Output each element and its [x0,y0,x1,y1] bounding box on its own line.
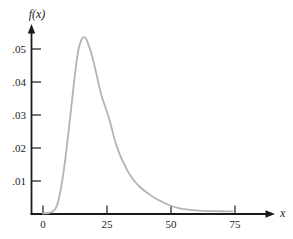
y-tick-label: .05 [0,43,28,56]
y-tick-label: .01 [0,175,28,188]
density-curve [43,37,232,214]
y-axis-arrowhead [28,24,35,34]
x-tick-label: 0 [30,218,56,231]
x-tick-label: 75 [222,218,248,231]
y-axis-title: f(x) [20,7,54,21]
y-tick-label: .02 [0,142,28,155]
x-axis-title: x [280,206,285,220]
x-tick-label: 25 [94,218,120,231]
y-tick-label: .04 [0,76,28,89]
plot-canvas [0,0,293,239]
density-plot-figure: f(x) x .01.02.03.04.050255075 [0,0,293,239]
x-axis-arrowhead [266,210,276,217]
y-tick-label: .03 [0,109,28,122]
x-tick-label: 50 [158,218,184,231]
